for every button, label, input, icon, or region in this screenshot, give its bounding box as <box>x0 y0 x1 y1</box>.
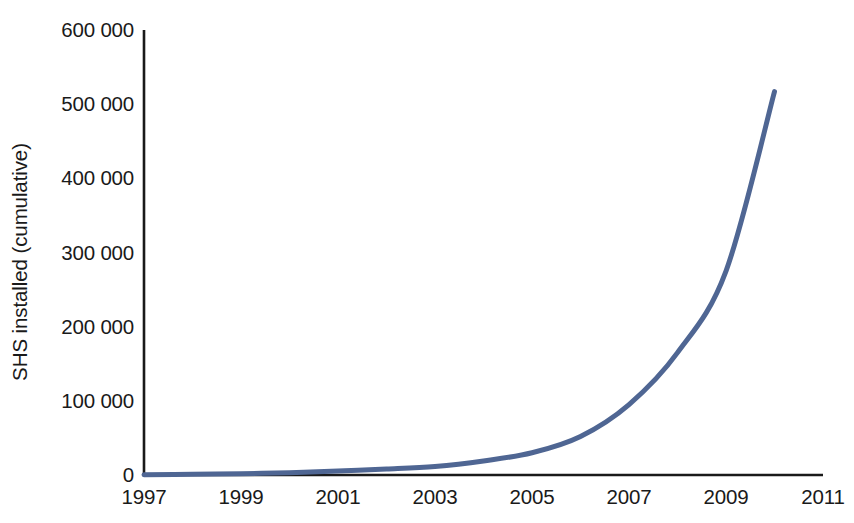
x-tick-label: 2009 <box>704 485 749 509</box>
y-tick-label: 200 000 <box>61 315 134 339</box>
x-tick-label: 1997 <box>122 485 167 509</box>
y-tick-label: 300 000 <box>61 241 134 265</box>
x-tick-label: 2001 <box>316 485 361 509</box>
y-tick-label: 400 000 <box>61 166 134 190</box>
y-tick-label: 500 000 <box>61 92 134 116</box>
x-tick-label: 2003 <box>413 485 458 509</box>
x-tick-label: 2007 <box>607 485 652 509</box>
y-tick-label: 600 000 <box>61 18 134 42</box>
x-tick-label: 2005 <box>510 485 555 509</box>
y-tick-label: 0 <box>123 463 134 487</box>
chart-container: SHS installed (cumulative) 0100 000200 0… <box>0 0 854 523</box>
x-tick-label: 1999 <box>219 485 264 509</box>
x-tick-label: 2011 <box>801 485 844 509</box>
y-tick-label: 100 000 <box>61 389 134 413</box>
series-line-shs-cumulative <box>144 92 775 475</box>
